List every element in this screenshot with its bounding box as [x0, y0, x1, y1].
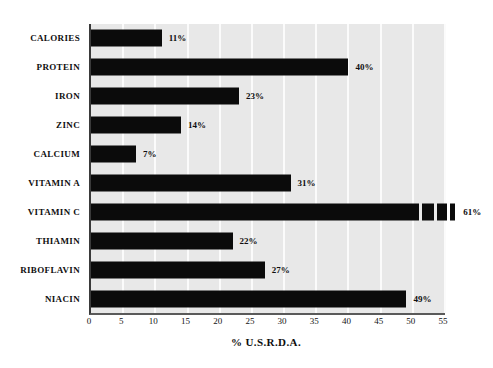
bar-row-niacin: 49%: [91, 284, 445, 313]
category-label-vitamin-a: VITAMIN A: [28, 178, 80, 188]
x-tick-label-45: 45: [374, 316, 383, 326]
category-label-row: PROTEIN: [0, 53, 85, 82]
bar-zinc: [91, 117, 181, 134]
bar-value-label-niacin: 49%: [413, 294, 431, 304]
bar-row-protein: 40%: [91, 53, 445, 82]
plot-area: 11%40%23%14%7%31%61%22%27%49%: [89, 24, 445, 315]
category-label-niacin: NIACIN: [45, 294, 80, 304]
category-label-thiamin: THIAMIN: [36, 236, 80, 246]
category-label-protein: PROTEIN: [37, 62, 80, 72]
category-label-row: NIACIN: [0, 284, 85, 313]
bar-value-label-zinc: 14%: [188, 120, 206, 130]
x-tick-label-50: 50: [406, 316, 415, 326]
bar-value-label-calories: 11%: [169, 33, 187, 43]
bar-vitamin-c: [91, 203, 419, 220]
bar-row-zinc: 14%: [91, 111, 445, 140]
x-tick-label-40: 40: [342, 316, 351, 326]
bar-value-label-riboflavin: 27%: [272, 265, 290, 275]
x-tick-label-55: 55: [439, 316, 448, 326]
bar-calcium: [91, 146, 136, 163]
bar-riboflavin: [91, 261, 265, 278]
x-tick-label-15: 15: [181, 316, 190, 326]
bar-value-label-protein: 40%: [355, 62, 373, 72]
bar-overflow-segment-vitamin-c-2: [437, 203, 447, 220]
bar-value-label-vitamin-c: 61%: [463, 207, 481, 217]
bar-row-vitamin-a: 31%: [91, 169, 445, 198]
bar-row-vitamin-c: 61%: [91, 197, 445, 226]
category-label-row: VITAMIN C: [0, 197, 85, 226]
bars-layer: 11%40%23%14%7%31%61%22%27%49%: [91, 24, 445, 313]
bar-thiamin: [91, 232, 233, 249]
bar-overflow-segment-vitamin-c-1: [422, 203, 434, 220]
x-tick-label-10: 10: [149, 316, 158, 326]
x-tick-label-20: 20: [213, 316, 222, 326]
category-label-row: VITAMIN A: [0, 169, 85, 198]
x-tick-label-0: 0: [87, 316, 92, 326]
bar-calories: [91, 30, 162, 47]
category-label-row: THIAMIN: [0, 226, 85, 255]
category-label-row: CALORIES: [0, 24, 85, 53]
bar-row-thiamin: 22%: [91, 226, 445, 255]
category-label-calories: CALORIES: [30, 33, 80, 43]
category-label-zinc: ZINC: [56, 120, 80, 130]
x-tick-label-5: 5: [119, 316, 124, 326]
bar-vitamin-a: [91, 174, 291, 191]
category-label-calcium: CALCIUM: [34, 149, 80, 159]
bar-row-calories: 11%: [91, 24, 445, 53]
bar-value-label-calcium: 7%: [143, 149, 157, 159]
bar-protein: [91, 59, 348, 76]
category-label-row: ZINC: [0, 111, 85, 140]
bar-value-label-vitamin-a: 31%: [298, 178, 316, 188]
bar-row-iron: 23%: [91, 82, 445, 111]
bar-iron: [91, 88, 239, 105]
category-label-iron: IRON: [55, 91, 80, 101]
x-tick-label-25: 25: [245, 316, 254, 326]
category-label-row: RIBOFLAVIN: [0, 255, 85, 284]
bar-niacin: [91, 290, 406, 307]
x-axis-ticks: 0510152025303540455055: [89, 316, 443, 332]
bar-overflow-segment-vitamin-c-3: [450, 203, 455, 220]
category-label-vitamin-c: VITAMIN C: [28, 207, 80, 217]
bar-chart: CALORIES PROTEIN IRON ZINC CALCIUM VITAM…: [0, 0, 493, 368]
x-axis-title: % U.S.R.D.A.: [89, 336, 443, 348]
category-label-row: CALCIUM: [0, 140, 85, 169]
bar-value-label-thiamin: 22%: [240, 236, 258, 246]
bar-row-calcium: 7%: [91, 140, 445, 169]
category-label-row: IRON: [0, 82, 85, 111]
x-tick-label-30: 30: [278, 316, 287, 326]
bar-row-riboflavin: 27%: [91, 255, 445, 284]
bar-value-label-iron: 23%: [246, 91, 264, 101]
category-axis: CALORIES PROTEIN IRON ZINC CALCIUM VITAM…: [0, 24, 85, 313]
x-tick-label-35: 35: [310, 316, 319, 326]
category-label-riboflavin: RIBOFLAVIN: [20, 265, 80, 275]
